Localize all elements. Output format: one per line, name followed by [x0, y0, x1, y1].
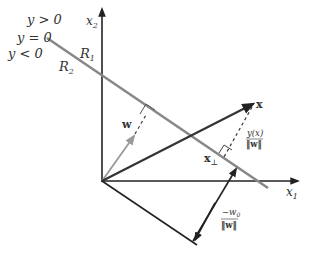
- label-x2: x2: [86, 14, 98, 30]
- label-y-gt: y > 0: [26, 12, 62, 27]
- right-angle-marker-w: [140, 104, 155, 114]
- svg-text:y(x): y(x): [246, 128, 263, 138]
- label-w: w: [121, 118, 132, 131]
- bias-baseline: [102, 181, 197, 245]
- svg-text:−w0: −w0: [222, 207, 240, 218]
- diagram-canvas: y > 0 y = 0 y < 0 x2 x1 R1 R2 w x x⊥ y(x…: [0, 0, 312, 259]
- label-distance-fraction: y(x) ‖w‖: [246, 128, 263, 150]
- label-x1: x1: [286, 185, 298, 201]
- svg-text:‖w‖: ‖w‖: [221, 220, 237, 231]
- x-vector: [102, 104, 253, 181]
- bias-arrow-back: [195, 203, 215, 240]
- label-y-lt: y < 0: [7, 46, 43, 61]
- svg-text:‖w‖: ‖w‖: [246, 139, 262, 150]
- label-x: x: [256, 98, 263, 111]
- w-vector: [102, 136, 134, 181]
- label-region-1: R1: [79, 46, 95, 63]
- label-y-eq: y = 0: [16, 30, 52, 45]
- label-region-2: R2: [58, 59, 74, 76]
- w-extension-dashed: [135, 115, 146, 134]
- label-bias-fraction: −w0 ‖w‖: [221, 207, 240, 231]
